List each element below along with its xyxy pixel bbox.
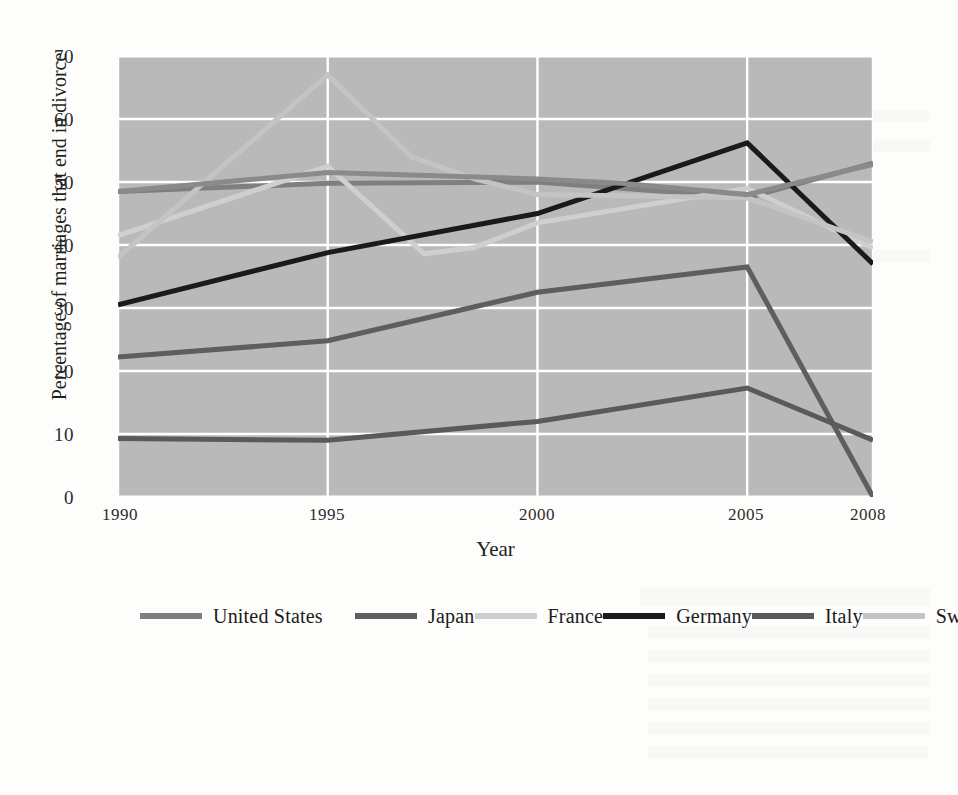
legend-item-label: Sweden bbox=[936, 605, 958, 628]
legend-swatch-icon bbox=[603, 613, 665, 619]
x-tick-label: 2000 bbox=[519, 505, 555, 525]
legend-item-japan[interactable]: Japan bbox=[355, 600, 475, 632]
legend-swatch-icon bbox=[355, 613, 417, 619]
series-line-united-kingdom bbox=[118, 164, 873, 194]
legend-item-united-states[interactable]: United States bbox=[140, 600, 355, 632]
x-tick-label: 1990 bbox=[102, 505, 138, 525]
series-line-japan bbox=[118, 267, 873, 497]
x-tick-label: 1995 bbox=[309, 505, 345, 525]
legend-item-label: Japan bbox=[428, 605, 475, 628]
legend-item-france[interactable]: France bbox=[475, 600, 604, 632]
legend-swatch-icon bbox=[140, 613, 202, 619]
legend-swatch-icon bbox=[475, 613, 537, 619]
legend-swatch-icon bbox=[863, 613, 925, 619]
chart-legend: United StatesJapanFranceGermanyItalySwed… bbox=[140, 600, 660, 632]
y-axis-title: Percentage of marriages that end in divo… bbox=[48, 0, 71, 462]
x-tick-label: 2008 bbox=[850, 505, 886, 525]
legend-item-label: France bbox=[548, 605, 604, 628]
x-tick-label: 2005 bbox=[728, 505, 764, 525]
legend-item-label: Italy bbox=[825, 605, 863, 628]
plot-area bbox=[118, 56, 873, 497]
legend-swatch-icon bbox=[752, 613, 814, 619]
series-line-germany bbox=[118, 143, 873, 305]
divorce-rate-line-chart: 70 60 50 40 30 20 10 0 Percentage of mar… bbox=[0, 0, 958, 795]
y-tick-label: 0 bbox=[32, 488, 74, 507]
legend-item-label: United States bbox=[213, 605, 323, 628]
legend-item-sweden[interactable]: Sweden bbox=[863, 600, 958, 632]
plot-canvas bbox=[118, 56, 873, 497]
series-line-sweden bbox=[118, 75, 873, 258]
legend-item-label: Germany bbox=[676, 605, 752, 628]
x-axis-title: Year bbox=[118, 537, 873, 562]
legend-item-germany[interactable]: Germany bbox=[603, 600, 752, 632]
series-line-italy bbox=[118, 388, 873, 440]
legend-item-italy[interactable]: Italy bbox=[752, 600, 863, 632]
